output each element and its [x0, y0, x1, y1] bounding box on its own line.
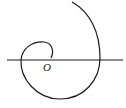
- origin-label: O: [43, 62, 51, 73]
- spiral-curve: [21, 2, 100, 99]
- spiral-diagram: [0, 0, 126, 108]
